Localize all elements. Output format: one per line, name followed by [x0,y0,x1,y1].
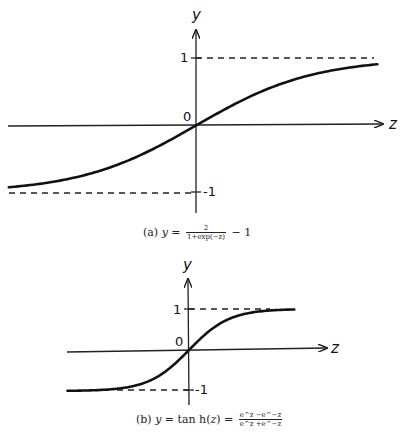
plot-b-tick-label-1: 1 [173,302,181,317]
caption-a-prefix: (a) [143,226,162,239]
plot-a-tick-label-minus-1: -1 [203,184,216,199]
caption-a-fraction: 21+exp(−z) [186,224,226,241]
caption-a-numerator: 2 [186,224,226,233]
caption-a-denominator: 1+exp(−z) [186,233,226,241]
caption-a-suffix: − 1 [228,226,251,239]
plot-a-y-label: y [191,6,202,24]
plot-b-z-axis [67,348,327,352]
plot-a-tick-label-1: 1 [180,50,188,65]
caption-b-fraction: e^z −e^−ze^z +e^−z [239,411,282,428]
plot-a: y z 1 0 -1 [8,6,398,213]
plot-a-tick-label-0: 0 [183,109,191,124]
plot-b-tick-label-0: 0 [175,334,183,349]
caption-a-eq: = [168,226,184,239]
caption-b-numerator: e^z −e^−z [239,411,282,420]
caption-b-close: ) = [216,413,237,426]
plot-b-y-label: y [182,256,193,274]
plot-b-z-label: z [330,339,340,357]
caption-b-denominator: e^z +e^−z [239,420,282,428]
figure-canvas: y z 1 0 -1 y z 1 0 -1 [0,0,407,443]
plot-a-z-label: z [388,115,398,133]
plot-a-caption: (a) y = 21+exp(−z) − 1 [143,224,251,241]
plot-b: y z 1 0 -1 [67,256,340,405]
plot-b-caption: (b) y = tan h(z) = e^z −e^−ze^z +e^−z [136,411,284,428]
caption-b-mid: = tan h( [161,413,210,426]
plot-b-tick-label-minus-1: -1 [195,382,208,397]
plot-b-y-axis [188,279,189,405]
caption-b-prefix: (b) [136,413,155,426]
